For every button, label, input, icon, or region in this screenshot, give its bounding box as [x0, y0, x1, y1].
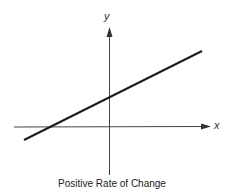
coordinate-plane	[0, 0, 230, 192]
y-axis-label: y	[104, 11, 110, 22]
x-axis-arrow-icon	[201, 124, 211, 130]
x-axis-label: x	[214, 120, 220, 131]
diagram-caption: Positive Rate of Change	[0, 179, 224, 189]
y-axis-arrow-icon	[107, 27, 113, 37]
